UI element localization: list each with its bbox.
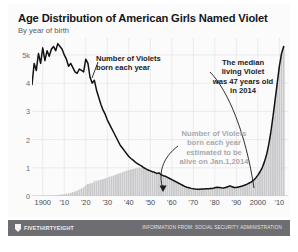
bar [283,46,285,196]
bar [218,188,220,196]
bar [225,188,227,196]
bar [139,168,141,196]
x-tick-label: '30 [102,198,112,207]
bar [70,193,72,196]
bar [227,187,229,196]
y-tick-label: 5k [14,50,30,59]
bar [154,172,156,196]
bar [184,186,186,196]
bar [229,186,231,196]
bar [251,182,253,196]
bar [177,183,179,196]
bar [124,171,126,196]
bar [212,188,214,196]
bar [242,186,244,196]
bar [106,178,108,196]
bar [72,192,74,196]
bar [53,195,55,196]
bar [85,185,87,196]
bar [57,195,59,196]
bar [113,175,115,196]
bar [175,182,177,196]
bar [147,170,149,196]
bar [143,169,145,196]
bar [87,184,89,196]
bar [238,187,240,196]
x-tick-label: '10 [275,198,285,207]
bar [203,189,205,196]
x-tick-label: '60 [167,198,177,207]
x-axis: 1900'10'20'30'40'50'60'70'80'902000'10 [32,198,288,212]
y-tick-label: 4 [14,79,30,88]
x-tick-label: '90 [232,198,242,207]
bar [141,168,143,196]
bar [266,155,268,196]
bar [115,175,117,196]
bar [128,170,130,196]
bar [117,174,119,196]
bar [186,187,188,196]
source-credit: INFORMATION FROM: SOCIAL SECURITY ADMINI… [142,225,282,230]
bar [240,186,242,196]
bar [100,180,102,196]
chart-card: Age Distribution of American Girls Named… [8,4,290,218]
bar [268,145,270,196]
chart-figure: Age Distribution of American Girls Named… [0,0,298,252]
bar [50,195,52,196]
bar [83,187,85,196]
y-axis: 012345k [10,38,30,196]
bar [231,187,233,196]
x-tick-label: '20 [81,198,91,207]
y-tick-label: 0 [14,192,30,201]
bar [180,184,182,196]
bar [55,195,57,196]
bar [149,171,151,196]
brand-label: FIVETHIRTYEIGHT [24,225,74,231]
bar [91,183,93,196]
y-tick-label: 1 [14,163,30,172]
bar [276,83,278,196]
bar [132,169,134,196]
x-tick-label: 2000 [250,198,266,207]
bar [259,172,261,196]
footer-bar: FIVETHIRTYEIGHT INFORMATION FROM: SOCIAL… [8,220,290,236]
bar [246,184,248,196]
bar [171,180,173,196]
bar [74,191,76,196]
bar [59,195,61,196]
bar [173,181,175,196]
annotation-alive: Number of Violets born each year estimat… [164,129,264,167]
page-title: Age Distribution of American Girls Named… [18,12,268,24]
annotation-births: Number of Violets born each year [96,54,161,73]
bar [109,177,111,196]
bar [63,194,65,196]
bar [214,188,216,196]
bar [76,191,78,196]
bar [134,168,136,196]
bar [270,133,272,196]
bar [136,168,138,196]
x-tick-label: '80 [210,198,220,207]
bar [98,180,100,196]
bar [61,194,63,196]
bar [119,173,121,196]
bar [205,189,207,196]
brand: FIVETHIRTYEIGHT [15,224,74,232]
bar [152,172,154,196]
x-tick-label: 1900 [35,198,51,207]
bar [78,190,80,196]
bar [261,168,263,196]
bar [182,185,184,196]
bar [235,188,237,196]
bar [274,100,276,196]
bar [66,194,68,196]
bar [263,162,265,196]
bar [281,54,283,196]
bar [233,188,235,196]
bar [192,189,194,196]
bar [93,181,95,196]
x-tick-label: '10 [59,198,69,207]
bar [96,181,98,196]
bar [201,189,203,196]
bar [156,174,158,196]
